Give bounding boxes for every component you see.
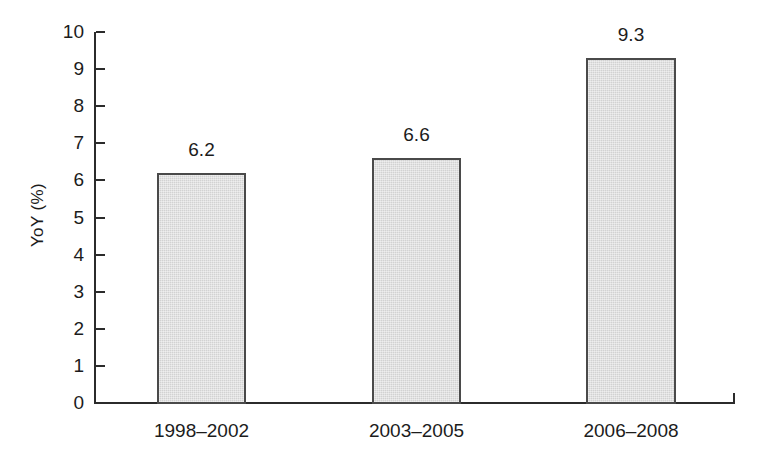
bar bbox=[157, 173, 246, 404]
y-axis-title: YoY (%) bbox=[28, 183, 48, 247]
y-axis-tick-label: 1 bbox=[52, 356, 84, 375]
y-axis-tick bbox=[96, 217, 105, 219]
bar bbox=[586, 58, 676, 404]
x-axis-category-label: 2006–2008 bbox=[531, 421, 731, 440]
y-axis-tick bbox=[96, 31, 105, 33]
x-axis-end-tick bbox=[733, 393, 735, 403]
y-axis-tick-label: 9 bbox=[52, 59, 84, 78]
y-axis-tick-label: 0 bbox=[52, 393, 84, 412]
x-axis-category-label: 2003–2005 bbox=[317, 421, 516, 440]
y-axis-tick bbox=[96, 105, 105, 107]
bar-chart: YoY (%) 012345678910 6.21998–20026.62003… bbox=[0, 0, 771, 464]
y-axis-tick bbox=[96, 142, 105, 144]
y-axis-tick bbox=[96, 402, 105, 404]
y-axis-tick-label: 7 bbox=[52, 133, 84, 152]
bar-value-label: 9.3 bbox=[546, 25, 716, 44]
y-axis-tick bbox=[96, 365, 105, 367]
y-axis-tick bbox=[96, 328, 105, 330]
y-axis-tick bbox=[96, 68, 105, 70]
x-axis-category-label: 1998–2002 bbox=[102, 421, 301, 440]
y-axis-tick-label: 3 bbox=[52, 282, 84, 301]
bar-value-label: 6.6 bbox=[332, 125, 501, 144]
y-axis-tick-label: 10 bbox=[52, 22, 84, 41]
y-axis-tick-label: 5 bbox=[52, 208, 84, 227]
y-axis-tick-label: 2 bbox=[52, 319, 84, 338]
y-axis-tick bbox=[96, 179, 105, 181]
bar-value-label: 6.2 bbox=[117, 140, 286, 159]
y-axis-tick-label: 6 bbox=[52, 170, 84, 189]
y-axis-tick-label: 4 bbox=[52, 245, 84, 264]
y-axis-tick bbox=[96, 254, 105, 256]
bar bbox=[372, 158, 461, 404]
y-axis-tick-label: 8 bbox=[52, 96, 84, 115]
y-axis-tick bbox=[96, 291, 105, 293]
